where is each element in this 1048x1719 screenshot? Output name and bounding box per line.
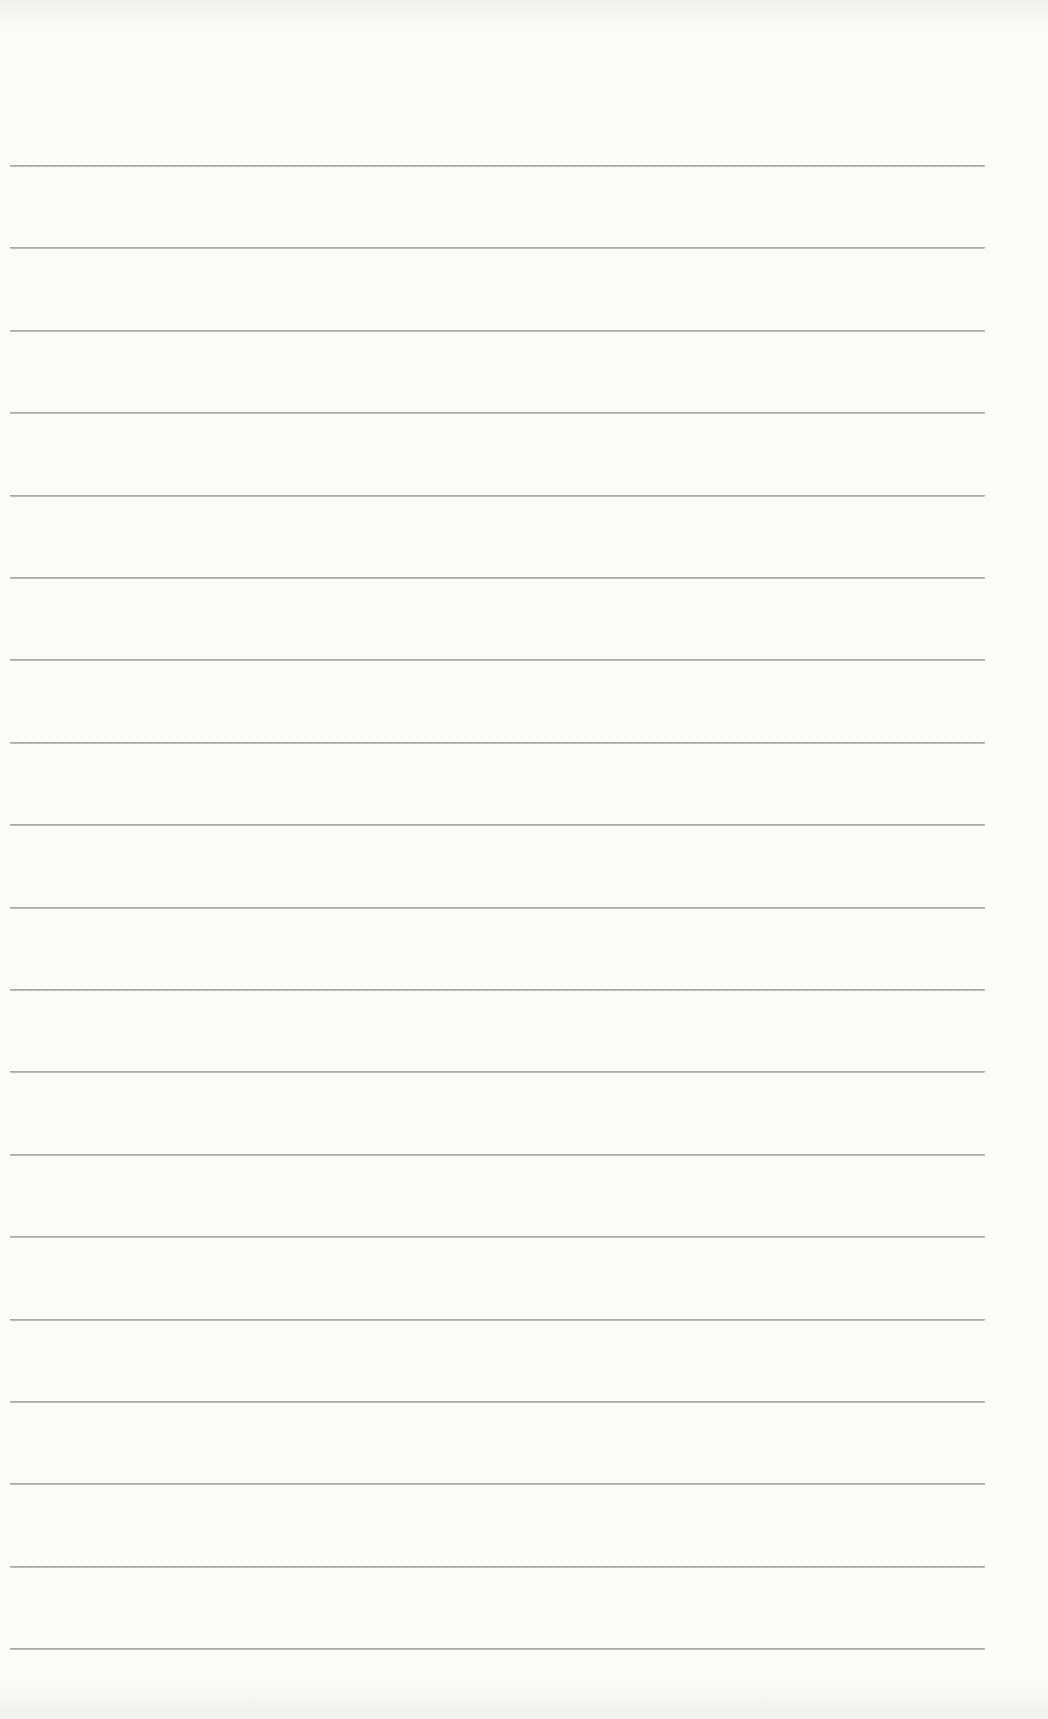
paper-bottom-edge <box>0 1679 1048 1719</box>
ruled-line <box>10 247 985 249</box>
ruled-line <box>10 989 985 991</box>
ruled-line <box>10 1154 985 1156</box>
ruled-line <box>10 165 985 167</box>
ruled-line <box>10 824 985 826</box>
paper-top-edge <box>0 0 1048 30</box>
ruled-line <box>10 1319 985 1321</box>
ruled-line <box>10 659 985 661</box>
ruled-line <box>10 577 985 579</box>
ruled-line <box>10 1071 985 1073</box>
ruled-line <box>10 1566 985 1568</box>
ruled-line <box>10 1648 985 1650</box>
ruled-line <box>10 412 985 414</box>
ruled-line <box>10 1483 985 1485</box>
ruled-line <box>10 495 985 497</box>
ruled-line <box>10 330 985 332</box>
ruled-line <box>10 1236 985 1238</box>
ruled-line <box>10 1401 985 1403</box>
ruled-line <box>10 742 985 744</box>
ruled-line <box>10 907 985 909</box>
